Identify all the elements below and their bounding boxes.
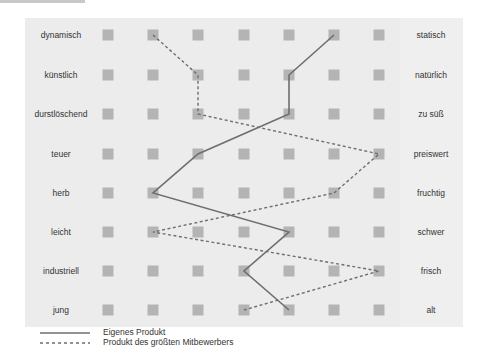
legend-own-product: Eigenes Produkt — [103, 327, 165, 337]
legend-competitor: Produkt des größten Mitbewerbers — [103, 337, 233, 347]
competitor-line — [153, 35, 379, 310]
own-product-line — [153, 35, 334, 310]
profile-lines — [0, 0, 485, 353]
